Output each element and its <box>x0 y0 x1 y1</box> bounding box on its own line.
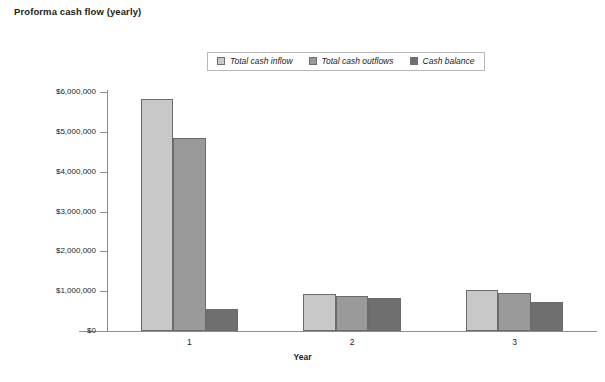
plot-area: $0$1,000,000$2,000,000$3,000,000$4,000,0… <box>0 0 605 382</box>
x-axis-tick-label: 2 <box>350 337 355 347</box>
bar-series-layer <box>0 0 605 382</box>
x-axis-tick-label: 1 <box>187 337 192 347</box>
bar[interactable] <box>466 290 499 331</box>
bar[interactable] <box>498 293 531 331</box>
bar[interactable] <box>336 296 369 331</box>
bar[interactable] <box>173 138 206 331</box>
bar[interactable] <box>206 309 239 331</box>
bar[interactable] <box>141 99 174 331</box>
x-axis-tick-label: 3 <box>512 337 517 347</box>
bar[interactable] <box>368 298 401 331</box>
x-axis-title: Year <box>0 352 605 362</box>
bar[interactable] <box>303 294 336 331</box>
bar[interactable] <box>531 302 564 331</box>
